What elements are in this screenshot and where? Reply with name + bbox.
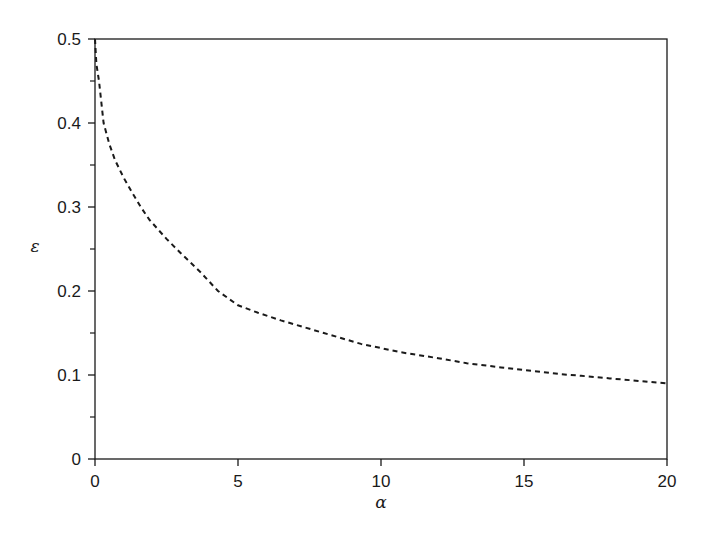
y-tick-label: 0.5: [57, 30, 81, 49]
x-tick-label: 15: [515, 472, 534, 491]
x-tick-label: 10: [372, 472, 391, 491]
y-tick-label: 0.3: [57, 198, 81, 217]
plot-frame: [95, 39, 667, 459]
y-tick-label: 0.1: [57, 366, 81, 385]
y-tick-label: 0.4: [57, 114, 81, 133]
data-series-curve: [95, 39, 667, 383]
y-axis-label: ε: [30, 236, 39, 256]
x-tick-label: 0: [90, 472, 99, 491]
y-tick-label: 0: [72, 450, 81, 469]
x-axis-ticks: 05101520: [90, 459, 676, 491]
chart: 00.10.20.30.40.5 05101520 α ε: [0, 0, 708, 548]
x-tick-label: 5: [233, 472, 242, 491]
y-tick-label: 0.2: [57, 282, 81, 301]
x-tick-label: 20: [658, 472, 677, 491]
x-axis-label: α: [375, 492, 387, 512]
y-axis-ticks: 00.10.20.30.40.5: [57, 30, 95, 469]
